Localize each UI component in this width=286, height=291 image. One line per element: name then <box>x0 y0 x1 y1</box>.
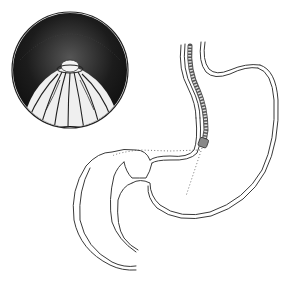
duodenum <box>73 149 152 270</box>
endoscope <box>190 46 209 148</box>
endoscopic-inset <box>10 10 130 130</box>
medical-illustration <box>0 0 286 291</box>
